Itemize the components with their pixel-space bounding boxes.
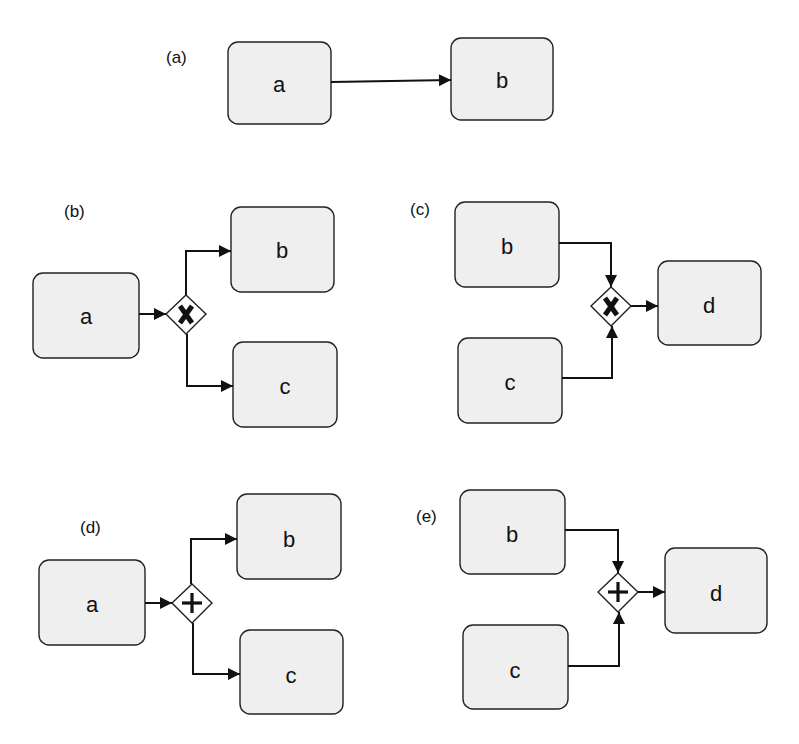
task-b: b (231, 207, 334, 292)
task-label: c (280, 374, 291, 399)
panel-b: (b) a b c (33, 202, 337, 427)
task-label: b (283, 527, 295, 552)
task-label: a (80, 304, 93, 329)
task-label: b (501, 234, 513, 259)
task-label: d (703, 293, 715, 318)
exclusive-gateway (591, 287, 631, 326)
task-d: d (665, 548, 767, 633)
task-label: c (286, 663, 297, 688)
sequence-flow-arrow (562, 326, 612, 378)
sequence-flow-arrow (565, 530, 618, 573)
panel-label: (c) (410, 200, 430, 219)
task-c: c (233, 342, 337, 427)
task-a: a (39, 560, 145, 645)
task-label: d (710, 581, 722, 606)
task-label: a (86, 592, 99, 617)
task-b: b (455, 202, 559, 287)
parallel-gateway (598, 573, 638, 612)
task-b: b (460, 490, 565, 574)
bpmn-diagram: (a) a b (b) a b c (0, 0, 799, 744)
sequence-flow-arrow (331, 80, 451, 82)
task-label: b (496, 68, 508, 93)
panel-label: (b) (64, 202, 85, 221)
task-label: a (273, 72, 286, 97)
parallel-gateway (172, 584, 212, 623)
panel-label: (a) (166, 48, 187, 67)
task-c: c (240, 630, 343, 714)
panel-d: (d) a b c (39, 494, 343, 714)
task-label: b (276, 238, 288, 263)
sequence-flow-arrow (559, 243, 611, 287)
panel-label: (e) (416, 507, 437, 526)
panel-label: (d) (80, 518, 101, 537)
task-label: b (506, 522, 518, 547)
task-label: c (510, 658, 521, 683)
task-a: a (33, 273, 139, 358)
sequence-flow-arrow (568, 612, 619, 666)
panel-e: (e) b c d (416, 490, 767, 709)
exclusive-gateway (166, 295, 206, 334)
task-a: a (228, 42, 331, 124)
task-d: d (658, 261, 761, 345)
sequence-flow-arrow (191, 539, 237, 584)
panel-a: (a) a b (166, 38, 553, 124)
task-b: b (237, 494, 341, 579)
task-c: c (463, 625, 568, 709)
sequence-flow-arrow (193, 623, 240, 674)
panel-c: (c) b c d (410, 200, 761, 423)
task-label: c (505, 370, 516, 395)
sequence-flow-arrow (186, 251, 231, 295)
task-b: b (451, 38, 553, 120)
task-c: c (458, 338, 562, 423)
sequence-flow-arrow (187, 334, 233, 386)
